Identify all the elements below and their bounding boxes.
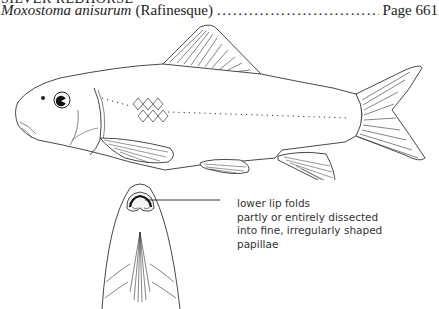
lower-lip bbox=[127, 192, 154, 211]
fish-illustration bbox=[0, 20, 439, 180]
caption-line: lower lip folds bbox=[237, 197, 382, 211]
caption-line: partly or entirely dissected bbox=[237, 211, 382, 225]
caption-line: into fine, irregularly shaped bbox=[237, 224, 382, 238]
species-index-line: Moxostoma anisurum (Rafinesque) ........… bbox=[1, 2, 438, 20]
author-name: (Rafinesque) bbox=[135, 2, 212, 19]
anal-fin bbox=[278, 152, 335, 180]
scientific-name: Moxostoma anisurum bbox=[1, 2, 131, 19]
pelvic-fin bbox=[200, 159, 249, 173]
caudal-fin bbox=[356, 66, 425, 160]
leader-dots: ........................................… bbox=[217, 2, 379, 19]
throat-lines bbox=[105, 232, 176, 302]
caption-line: papillae bbox=[237, 238, 382, 252]
lip-annotation: lower lip folds partly or entirely disse… bbox=[237, 197, 382, 251]
mouth-ventral-illustration bbox=[100, 180, 220, 309]
page-reference[interactable]: Page 661 bbox=[383, 2, 438, 19]
